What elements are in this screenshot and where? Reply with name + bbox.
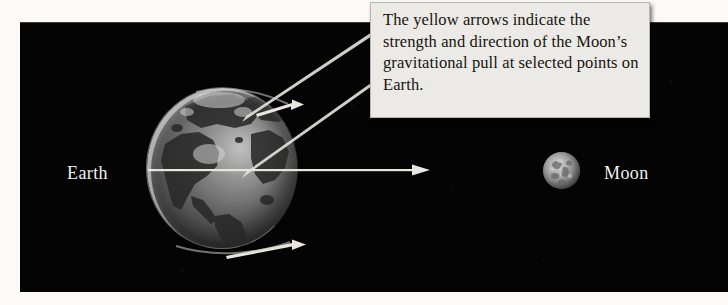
moon-halftone-texture (543, 152, 580, 189)
moon-label: Moon (604, 163, 649, 184)
figure-root: Earth Moon The yellow arrows indicate th… (0, 0, 728, 305)
caption-text: The yellow arrows indicate the strength … (383, 9, 639, 95)
moon-globe (543, 152, 580, 189)
caption-callout: The yellow arrows indicate the strength … (370, 2, 650, 118)
earth-label: Earth (67, 163, 108, 184)
earth-globe (147, 88, 297, 248)
earth-rim (146, 87, 298, 249)
